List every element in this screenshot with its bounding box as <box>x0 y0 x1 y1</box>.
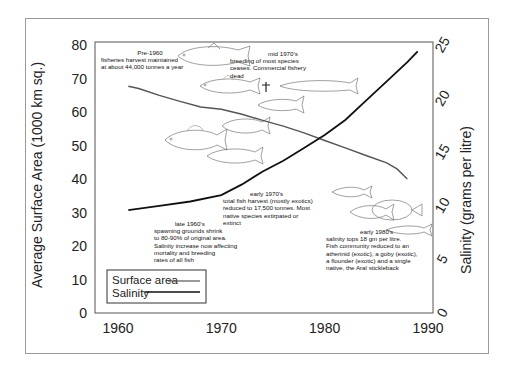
annotation: late 1960'sspawning grounds shrinkto 80-… <box>154 220 238 263</box>
y-tick-label: 70 <box>71 71 87 87</box>
annotation-line: Fish community reduced to an <box>326 242 409 249</box>
fish-icon <box>332 186 372 198</box>
annotation: mid 1970'sbreeding of most speciesceases… <box>230 50 307 79</box>
annotations: Pre-1960fisheries harvest maintainedat a… <box>101 49 418 271</box>
y2-axis-title: Salinity (grams per litre) <box>458 126 474 274</box>
y2-tick-label: 5 <box>433 251 451 266</box>
annotation-line: mortality and breeding <box>154 249 216 256</box>
fish-icon <box>372 200 422 220</box>
fish-icon <box>280 78 358 94</box>
x-tick-label: 1980 <box>309 320 340 336</box>
annotation-heading: mid 1970's <box>268 50 298 57</box>
y2-tick-label: 25 <box>431 34 453 56</box>
y2-axis-ticks: 0510152025 <box>431 34 453 320</box>
annotation: early 1980'ssalinity tops 18 gm per litr… <box>326 228 418 271</box>
annotation-line: extinct <box>223 219 241 226</box>
annotation-line: ceases. Commercial fishery <box>230 64 307 71</box>
y-tick-label: 20 <box>71 238 87 254</box>
legend: Surface area Salinity <box>107 270 206 303</box>
y-tick-label: 10 <box>71 272 87 288</box>
fish-icon <box>207 147 263 164</box>
annotation-line: fisheries harvest maintained <box>101 56 179 63</box>
annotation-line: dead <box>230 72 244 79</box>
annotation-heading: early 1980's <box>360 228 393 235</box>
x-tick-label: 1960 <box>102 320 133 336</box>
annotation-line: salinity tops 18 gm per litre. <box>326 235 402 242</box>
annotation-line: to 80-90% of original area. <box>154 234 227 241</box>
y2-tick-label: 10 <box>431 194 453 216</box>
y-tick-label: 50 <box>71 138 87 154</box>
y-tick-label: 60 <box>71 104 87 120</box>
y-axis-title: Average Surface Area (1000 km sq.) <box>29 62 45 288</box>
annotation-heading: late 1960's <box>175 220 205 227</box>
x-axis-ticks: 1960197019801990 <box>102 320 443 336</box>
annotation-line: a flounder (exotic) and a single <box>326 257 411 264</box>
y-axis-ticks: 01020304050607080 <box>71 37 87 321</box>
y-tick-label: 40 <box>71 171 87 187</box>
y2-tick-label: 15 <box>431 141 453 163</box>
x-tick-label: 1970 <box>206 320 237 336</box>
fish-icon <box>165 126 227 150</box>
annotation-heading: early 1970's <box>250 190 283 197</box>
fish-icon <box>222 117 270 134</box>
annotation-line: reduced to 17,500 tonnes. Most <box>223 204 310 211</box>
annotation-line: breeding of most species <box>230 57 299 64</box>
annotation-heading: Pre-1960 <box>137 49 163 56</box>
y-tick-label: 0 <box>79 305 87 321</box>
annotation-line: native, the Aral stickleback <box>326 264 400 271</box>
y-tick-label: 80 <box>71 37 87 53</box>
salinity-line <box>128 51 417 210</box>
annotation: early 1970'stotal fish harvest (mostly e… <box>223 190 313 226</box>
y2-tick-label: 0 <box>433 305 451 320</box>
annotation-line: total fish harvest (mostly exotics) <box>223 197 313 204</box>
x-tick-label: 1990 <box>412 320 443 336</box>
chart: 01020304050607080 0510152025 19601970198… <box>0 0 515 371</box>
annotation-line: Salinity increase now affecting <box>154 242 238 249</box>
annotation-line: rates of all fish <box>154 256 194 263</box>
legend-surface-label: Surface area <box>112 274 178 286</box>
legend-salinity-label: Salinity <box>112 287 149 299</box>
y2-tick-label: 20 <box>431 87 453 109</box>
fish-icon <box>258 96 304 113</box>
y-tick-label: 30 <box>71 205 87 221</box>
annotation-line: atherinid (exotic), a goby (exotic), <box>326 250 418 257</box>
annotation-line: spawning grounds shrink <box>154 227 223 234</box>
annotation-line: at about 44,000 tonnes a year <box>101 63 183 70</box>
annotation-line: native species extirpated or <box>223 212 298 219</box>
cross-icon <box>262 82 270 92</box>
annotation: Pre-1960fisheries harvest maintainedat a… <box>101 49 183 70</box>
